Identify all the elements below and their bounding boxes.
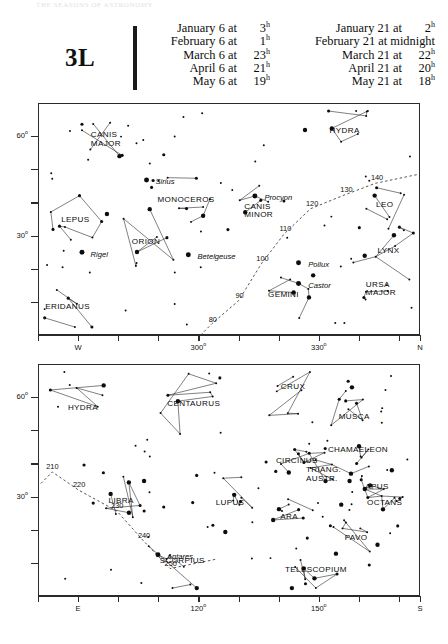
galactic-longitude-label: 140 xyxy=(371,173,383,182)
galactic-longitude-label: 90 xyxy=(235,292,243,301)
y-axis-label: 60o xyxy=(17,131,28,140)
constellation-label: HYDRA xyxy=(330,126,360,135)
x-axis-label: 120o xyxy=(191,604,207,613)
star-label: Pollux xyxy=(308,260,329,269)
sky-panel-north[interactable]: CANIS MAJORMONOCEROSLEPUSORIONERIDANUSHY… xyxy=(38,103,420,335)
epoch-row: February 6 at 1h xyxy=(148,35,270,48)
constellation-label: CHAMAELEON xyxy=(328,445,388,454)
epoch-date: January 6 at xyxy=(177,21,237,35)
x-axis-tick xyxy=(158,596,159,602)
x-axis-line xyxy=(38,596,420,597)
x-axis-label: E xyxy=(76,604,81,613)
x-axis-label: W xyxy=(75,343,82,352)
x-axis-tick xyxy=(319,335,320,341)
constellation-label: MUSCA xyxy=(339,413,370,422)
x-axis-label: 300o xyxy=(191,343,207,352)
galactic-longitude-label: 230 xyxy=(111,502,123,511)
y-axis-tick xyxy=(31,430,38,431)
y-axis-tick xyxy=(31,530,38,531)
x-axis-tick xyxy=(198,335,199,341)
constellation-label: TRIANG. AUSTR. xyxy=(306,467,341,484)
x-axis-label: N xyxy=(417,343,422,352)
x-axis-label: 330o xyxy=(311,343,327,352)
galactic-longitude-label: 220 xyxy=(73,481,85,490)
star-label: Procyon xyxy=(264,192,292,201)
constellation-label: URSA MAJOR xyxy=(366,281,396,298)
x-axis-tick xyxy=(38,596,39,602)
epoch-date: March 6 at xyxy=(183,48,237,62)
constellation-label: ORION xyxy=(132,238,160,247)
y-axis-tick xyxy=(31,169,38,170)
y-axis-tick xyxy=(31,202,38,203)
x-axis-tick xyxy=(279,596,280,602)
y-axis-label: 30o xyxy=(17,492,28,501)
epoch-time: midnight xyxy=(390,35,435,48)
starfield-north: CANIS MAJORMONOCEROSLEPUSORIONERIDANUSHY… xyxy=(39,104,419,334)
epoch-row: May 21 at 18h xyxy=(283,75,435,88)
constellation-label: CANIS MINOR xyxy=(244,203,273,220)
galactic-longitude-label: 80 xyxy=(209,315,217,324)
x-axis-tick xyxy=(359,596,360,602)
running-head: THE SEASONS OF ASTRONOMY xyxy=(36,1,286,10)
epoch-row: January 21 at 2h xyxy=(283,22,435,35)
epoch-time: 2h xyxy=(405,22,435,35)
x-axis-tick xyxy=(198,596,199,602)
constellation-label: GEMINI xyxy=(268,291,299,300)
epoch-date: February 21 at xyxy=(315,34,387,48)
galactic-longitude-label: 110 xyxy=(279,224,291,233)
x-axis-tick xyxy=(118,596,119,602)
galactic-longitude-label: 100 xyxy=(256,254,268,263)
header-divider xyxy=(133,26,137,90)
y-axis-tick xyxy=(31,236,38,237)
y-axis-tick xyxy=(31,497,38,498)
epoch-date: May 6 at xyxy=(193,74,237,88)
x-axis-label: S xyxy=(417,604,422,613)
constellation-label: CIRCINUS xyxy=(276,457,318,466)
constellation-label: TELESCOPIUM xyxy=(285,566,347,575)
x-axis-tick xyxy=(118,335,119,341)
x-axis-tick xyxy=(78,335,79,341)
constellation-label: LYNX xyxy=(378,247,400,256)
epoch-row: May 6 at 19h xyxy=(148,75,270,88)
constellation-label: ARA xyxy=(280,513,298,522)
y-axis-north: 60o30o xyxy=(0,103,38,335)
galactic-longitude-label: 130 xyxy=(340,185,352,194)
epoch-date: May 21 at xyxy=(352,74,402,88)
constellation-label: MONOCEROS xyxy=(158,196,215,205)
sky-panel-south[interactable]: HYDRACENTAURUSCRUXMUSCACHAMAELEONCIRCINU… xyxy=(38,364,420,596)
galactic-longitude-label: 210 xyxy=(46,462,58,471)
epoch-date: January 21 at xyxy=(336,21,402,35)
y-axis-tick xyxy=(31,397,38,398)
epoch-date: February 6 at xyxy=(171,34,237,48)
epoch-time: 18h xyxy=(405,75,435,88)
x-axis-tick xyxy=(158,335,159,341)
x-axis-label: 150o xyxy=(311,604,327,613)
chart-code: 3L xyxy=(42,44,118,72)
epoch-date: March 21 at xyxy=(342,48,402,62)
x-axis-tick xyxy=(239,335,240,341)
y-axis-tick xyxy=(31,563,38,564)
x-axis-tick xyxy=(399,335,400,341)
epoch-date: April 21 at xyxy=(348,61,402,75)
constellation-label: CENTAURUS xyxy=(167,400,220,409)
x-axis-tick xyxy=(38,335,39,341)
x-axis-north: W300o330oN xyxy=(38,335,420,355)
chart-header: 3L January 6 at 3hFebruary 6 at 1hMarch … xyxy=(0,22,448,96)
y-axis-tick xyxy=(31,463,38,464)
epoch-row: March 6 at 23h xyxy=(148,49,270,62)
starfield-south: HYDRACENTAURUSCRUXMUSCACHAMAELEONCIRCINU… xyxy=(39,365,419,595)
y-axis-label: 60o xyxy=(17,392,28,401)
constellation-label: CANIS MAJOR xyxy=(91,131,121,148)
epoch-row: February 21 at midnight xyxy=(283,35,435,48)
x-axis-tick xyxy=(279,335,280,341)
x-axis-tick xyxy=(359,335,360,341)
star-label: Castor xyxy=(308,280,330,289)
constellation-label: LEPUS xyxy=(61,216,89,225)
y-axis-tick xyxy=(31,302,38,303)
star-label: Betelgeuse xyxy=(198,251,236,260)
epoch-time: 19h xyxy=(240,75,270,88)
x-axis-south: E120o150oS xyxy=(38,596,420,616)
y-axis-south: 60o30o xyxy=(0,364,38,596)
galactic-longitude-label: 240 xyxy=(138,532,150,541)
x-axis-line xyxy=(38,335,420,336)
